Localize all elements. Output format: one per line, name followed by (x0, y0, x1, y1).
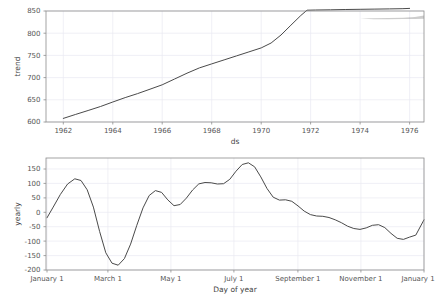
trend-xtick-label: 1966 (153, 127, 171, 135)
trend-ytick-label: 850 (27, 7, 40, 15)
trend-xtick-label: 1976 (401, 127, 419, 135)
yearly-xtick-label: March 1 (94, 275, 122, 283)
trend-axes: 600 650 700 750 800 850 1962 1964 1966 (0, 0, 438, 150)
trend-xtick-label: 1968 (203, 127, 221, 135)
yearly-axes: -200 -150 -100 -50 0 50 100 150 January … (0, 150, 438, 300)
yearly-ytick-label: -100 (25, 238, 41, 246)
trend-ytick-label: 600 (27, 118, 40, 126)
trend-subplot: 600 650 700 750 800 850 1962 1964 1966 (0, 0, 438, 150)
yearly-ytick-label: 150 (27, 165, 40, 173)
trend-ytick-label: 800 (27, 30, 40, 38)
yearly-xtick-label: January 1 (29, 275, 63, 283)
trend-xtick-label: 1962 (54, 127, 72, 135)
yearly-ytick-label: -50 (29, 223, 40, 231)
yearly-xtick-label: September 1 (275, 275, 320, 283)
yearly-xtick-label: November 1 (339, 275, 382, 283)
trend-x-ticks: 1962 1964 1966 1968 1970 1972 1974 1976 (54, 122, 419, 135)
trend-xtick-label: 1970 (252, 127, 270, 135)
yearly-xtick-label: May 1 (160, 275, 181, 283)
yearly-ytick-label: 0 (36, 209, 40, 217)
trend-ytick-label: 700 (27, 74, 40, 82)
yearly-y-ticks: -200 -150 -100 -50 0 50 100 150 (25, 165, 46, 274)
trend-xtick-label: 1972 (302, 127, 320, 135)
trend-xtick-label: 1974 (351, 127, 369, 135)
trend-y-ticks: 600 650 700 750 800 850 (27, 7, 46, 126)
yearly-yaxis-title: yearly (13, 202, 22, 226)
yearly-xtick-label: July 1 (223, 275, 243, 283)
trend-ytick-label: 650 (27, 96, 40, 104)
yearly-xaxis-title: Day of year (213, 285, 257, 294)
trend-xaxis-title: ds (231, 137, 240, 146)
yearly-ytick-label: -150 (25, 252, 41, 260)
yearly-ytick-label: 100 (27, 180, 40, 188)
prophet-components-figure: 600 650 700 750 800 850 1962 1964 1966 (0, 0, 438, 300)
yearly-ytick-label: 50 (32, 194, 41, 202)
yearly-subplot: -200 -150 -100 -50 0 50 100 150 January … (0, 150, 438, 300)
yearly-plot-background (46, 158, 424, 270)
trend-ytick-label: 750 (27, 52, 40, 60)
trend-xtick-label: 1964 (104, 127, 122, 135)
yearly-ytick-label: -200 (25, 266, 41, 274)
yearly-x-ticks: January 1 March 1 May 1 July 1 September… (29, 270, 434, 283)
yearly-xtick-label: January 1 (400, 275, 434, 283)
trend-yaxis-title: trend (13, 56, 22, 76)
